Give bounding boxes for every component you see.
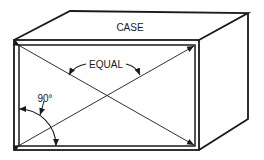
equal-arc-left [69, 64, 86, 75]
equal-arc-right [126, 64, 140, 75]
case-right-face [199, 13, 248, 150]
case-label: CASE [116, 22, 144, 33]
angle-label: 90° [37, 93, 52, 104]
equal-label: EQUAL [89, 59, 123, 70]
case-diagram: CASE EQUAL 90° [0, 0, 264, 160]
case-drawing: CASE EQUAL 90° [0, 0, 264, 160]
